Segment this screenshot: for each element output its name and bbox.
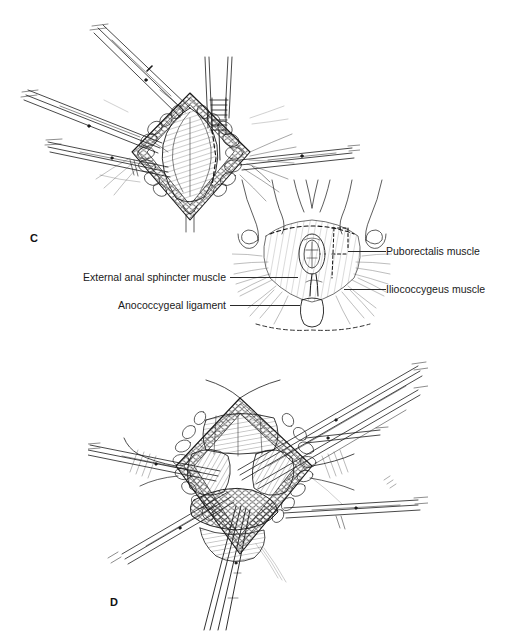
medical-figure: C D External anal sphincter muscle Anoco… — [0, 0, 511, 631]
leader-anococcygeal-ligament — [230, 305, 300, 306]
leader-external-anal-sphincter-muscle — [230, 277, 298, 278]
panel-letter-d: D — [110, 596, 118, 608]
label-iliococcygeus-muscle: Iliococcygeus muscle — [386, 283, 510, 295]
perineal-overview-illustration — [232, 178, 392, 336]
leader-puborectalis-muscle — [348, 251, 386, 252]
panel-c-illustration — [0, 0, 360, 235]
leader-iliococcygeus-muscle — [344, 289, 386, 290]
label-anococcygeal-ligament: Anococcygeal ligament — [26, 299, 226, 311]
panel-d-illustration — [88, 358, 428, 631]
label-puborectalis-muscle: Puborectalis muscle — [386, 245, 510, 257]
panel-letter-c: C — [30, 232, 38, 244]
label-external-anal-sphincter-muscle: External anal sphincter muscle — [26, 271, 226, 283]
